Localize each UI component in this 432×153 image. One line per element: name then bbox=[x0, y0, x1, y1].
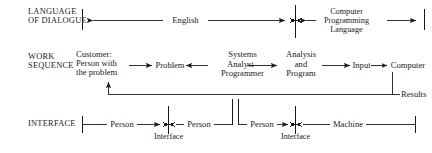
span-label-english: English bbox=[163, 16, 208, 25]
node-problem: Problem bbox=[154, 61, 186, 70]
node-customer-line3: the problem bbox=[76, 68, 117, 77]
node-analysis-and-program: Analysis and Program bbox=[279, 50, 323, 79]
analyst-line3: Programmer bbox=[208, 69, 277, 79]
cpl-line3: Language bbox=[306, 25, 387, 34]
node-customer: Customer: Person with the problem bbox=[76, 50, 117, 77]
row-heading-line2: OF DIALOGUE bbox=[28, 17, 87, 26]
node-systems-analyst-programmer: Systems Analyst– Programmer bbox=[208, 50, 277, 79]
node-input: Input bbox=[351, 61, 372, 70]
interface-label-person-machine: Interface bbox=[277, 133, 314, 142]
row-heading-line1: INTERFACE bbox=[28, 120, 76, 129]
row-heading-language-of-dialogue: LANGUAGE OF DIALOGUE bbox=[28, 8, 87, 26]
span-label-computer-programming-language: Computer Programming Language bbox=[306, 7, 387, 35]
cpl-line1: Computer bbox=[306, 7, 387, 16]
figure-diagram: LANGUAGE OF DIALOGUE English Computer Pr… bbox=[0, 0, 432, 153]
interface-arrowhead-right-2 bbox=[296, 122, 302, 127]
row-heading-interface: INTERFACE bbox=[28, 120, 76, 129]
node-computer: Computer bbox=[388, 61, 428, 70]
segment-label-person-left: Person bbox=[107, 120, 137, 129]
row-heading-work-sequence: WORK SEQUENCE bbox=[28, 53, 74, 71]
row-heading-line2: SEQUENCE bbox=[28, 62, 74, 71]
label-results: Results bbox=[401, 90, 426, 99]
cpl-line2: Programming bbox=[306, 16, 387, 25]
analysis-line3: Program bbox=[279, 69, 323, 79]
segment-label-machine: Machine bbox=[330, 120, 366, 129]
language-arrowhead-left bbox=[296, 18, 302, 23]
interface-arrowhead-right-1 bbox=[169, 122, 175, 127]
segment-label-person-right: Person bbox=[184, 120, 214, 129]
interface-label-person-person: Interface bbox=[150, 133, 187, 142]
segment-label-person-second: Person bbox=[247, 120, 277, 129]
